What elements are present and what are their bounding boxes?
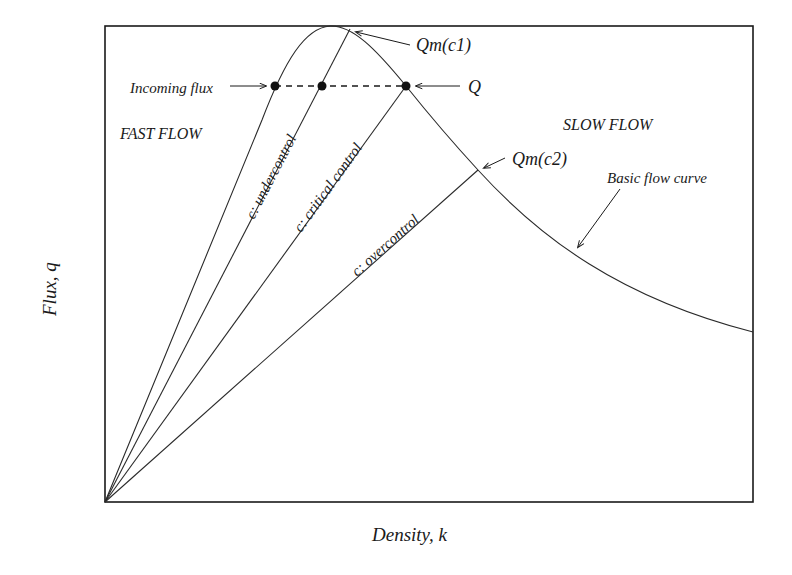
qm-c2-arrow-icon	[484, 158, 505, 168]
critical-intersection-dot	[402, 82, 411, 91]
overcontrol-line	[105, 170, 478, 502]
basic-flow-curve	[105, 26, 753, 502]
qm-c1-arrow-icon	[356, 32, 410, 45]
undercontrol-line	[105, 29, 350, 502]
overcontrol-label: c: overcontrol	[348, 211, 422, 279]
curve-intersection-dot	[271, 82, 280, 91]
basic-flow-curve-arrow-icon	[578, 189, 620, 247]
critical-control-label: c: critical control	[290, 140, 365, 235]
flow-diagram: Qm(c1) Incoming flux Q FAST FLOW SLOW FL…	[0, 0, 792, 575]
undercontrol-label: c: undercontrol	[242, 132, 299, 222]
plot-frame	[105, 26, 753, 502]
incoming-flux-label: Incoming flux	[129, 80, 213, 96]
x-axis-label: Density, k	[371, 524, 447, 545]
undercontrol-intersection-dot	[318, 82, 327, 91]
qm-c1-label: Qm(c1)	[416, 35, 471, 56]
fast-flow-label: FAST FLOW	[119, 125, 203, 142]
y-axis-label: Flux, q	[39, 262, 60, 317]
basic-flow-curve-label: Basic flow curve	[607, 170, 707, 186]
slow-flow-label: SLOW FLOW	[563, 116, 654, 133]
q-label: Q	[468, 77, 481, 97]
qm-c2-label: Qm(c2)	[512, 149, 567, 170]
